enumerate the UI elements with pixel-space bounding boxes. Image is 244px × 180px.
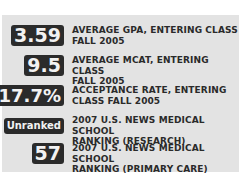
stat-label: ACCEPTANCE RATE, ENTERING CLASS FALL 200… (72, 85, 226, 106)
stat-value-badge: 9.5 (24, 55, 64, 76)
stat-value-badge: 3.59 (11, 25, 64, 46)
stat-label: 2007 U.S. NEWS MEDICAL SCHOOL RANKING (R… (72, 115, 239, 147)
stat-value-badge: 57 (32, 143, 64, 164)
stat-label: AVERAGE MCAT, ENTERING CLASS FALL 2005 (72, 55, 239, 87)
stat-label: AVERAGE GPA, ENTERING CLASS FALL 2005 (72, 25, 238, 46)
stats-panel: 3.59 AVERAGE GPA, ENTERING CLASS FALL 20… (2, 15, 239, 172)
stat-value-badge: 17.7% (0, 85, 64, 106)
stat-value-badge: Unranked (4, 118, 64, 134)
stat-label: 2007 U.S. NEWS MEDICAL SCHOOL RANKING (P… (72, 143, 239, 175)
